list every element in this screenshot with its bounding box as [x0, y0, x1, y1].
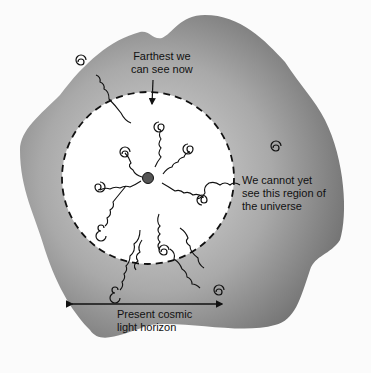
horizon-label: Present cosmic light horizon [117, 308, 192, 334]
cosmic-horizon-diagram: Farthest we can see now We cannot yet se… [0, 0, 371, 373]
farthest-label: Farthest we can see now [131, 50, 193, 76]
observer-icon [143, 173, 154, 184]
unseen-region-label: We cannot yet see this region of the uni… [242, 174, 326, 213]
